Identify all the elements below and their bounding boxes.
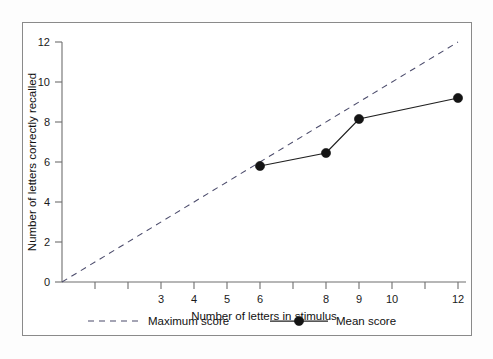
x-tick-label-10: 10: [386, 293, 398, 305]
x-tick-label-5: 5: [224, 293, 230, 305]
legend-marker-mean-score: [294, 316, 303, 325]
y-axis-tick-labels: 12 10 8 6 4 2 0: [38, 36, 50, 288]
legend-label-maximum-score: Maximum score: [148, 315, 229, 327]
y-tick-label-0: 0: [44, 276, 50, 288]
data-point-x9: [354, 114, 363, 123]
y-axis-title: Number of letters correctly recalled: [26, 73, 38, 251]
data-point-x8: [321, 148, 330, 157]
data-point-x6: [255, 161, 264, 170]
x-tick-label-8: 8: [323, 293, 329, 305]
y-tick-label-8: 8: [44, 116, 50, 128]
y-axis-ticks: [55, 42, 62, 282]
data-point-x12: [453, 93, 462, 102]
x-tick-label-12: 12: [452, 293, 464, 305]
x-tick-label-3: 3: [158, 293, 164, 305]
figure-canvas: 12 10 8 6 4 2 0 3 4 5 6: [0, 0, 493, 359]
y-tick-label-10: 10: [38, 76, 50, 88]
y-tick-label-6: 6: [44, 156, 50, 168]
x-tick-label-9: 9: [356, 293, 362, 305]
x-axis-ticks: [95, 282, 458, 289]
x-tick-label-4: 4: [191, 293, 197, 305]
x-tick-label-6: 6: [257, 293, 263, 305]
y-tick-label-2: 2: [44, 236, 50, 248]
series-mean-score-markers: [255, 93, 462, 170]
y-tick-label-12: 12: [38, 36, 50, 48]
chart-plot-area: 12 10 8 6 4 2 0 3 4 5 6: [0, 0, 493, 359]
y-tick-label-4: 4: [44, 196, 50, 208]
series-mean-score-line: [260, 98, 458, 166]
legend-label-mean-score: Mean score: [336, 315, 396, 327]
x-axis-tick-labels: 3 4 5 6 8 9 10 12: [158, 293, 464, 305]
